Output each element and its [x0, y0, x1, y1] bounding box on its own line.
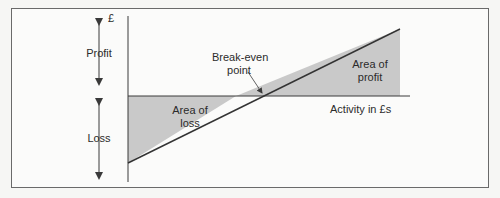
- area-of-profit-label: Area of profit: [340, 58, 400, 84]
- area-of-loss-label: Area of loss: [160, 104, 220, 130]
- area-of-profit-line2: profit: [340, 71, 400, 84]
- break-even-label: Break-even point: [212, 51, 266, 77]
- area-of-loss-line2: loss: [160, 117, 220, 130]
- break-even-label-line2: point: [212, 64, 266, 77]
- area-of-loss-line1: Area of: [160, 104, 220, 117]
- x-axis-label: Activity in £s: [330, 103, 391, 116]
- loss-label: Loss: [83, 132, 115, 145]
- profit-label: Profit: [81, 47, 117, 60]
- break-even-label-line1: Break-even: [212, 51, 266, 64]
- area-of-profit-line1: Area of: [340, 58, 400, 71]
- break-even-diagram: [0, 0, 500, 198]
- y-axis-unit-label: £: [108, 12, 114, 25]
